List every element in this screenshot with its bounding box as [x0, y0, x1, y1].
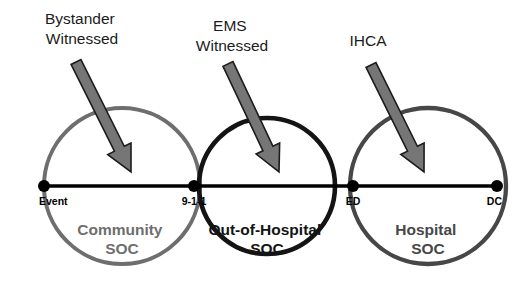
zone-label-community-line2: SOC: [105, 240, 139, 257]
callout-label-ems-line1: EMS: [213, 17, 247, 34]
zone-label-out-of-hospital-line1: Out-of-Hospital: [208, 221, 321, 238]
timeline-dot-911: [188, 180, 200, 192]
milestone-label-911: 9-1-1: [182, 195, 207, 207]
milestone-label-event: Event: [39, 195, 68, 207]
timeline-dot-event: [38, 180, 50, 192]
milestone-label-ed: ED: [346, 195, 361, 207]
callout-label-ems-line2: Witnessed: [196, 37, 268, 54]
callout-label-ihca-line1: IHCA: [349, 32, 387, 49]
timeline-dot-dc: [491, 180, 503, 192]
callout-label-ihca: IHCA: [349, 32, 387, 49]
zone-label-community-line1: Community: [77, 221, 163, 238]
zone-label-hospital-line1: Hospital: [395, 221, 456, 238]
systems-of-care-diagram: Event 9-1-1 ED DC Community SOC Out-of-H…: [0, 0, 531, 300]
zone-label-out-of-hospital-line2: SOC: [250, 240, 284, 257]
zone-label-hospital-line2: SOC: [411, 240, 445, 257]
diagram-root: Event 9-1-1 ED DC Community SOC Out-of-H…: [0, 0, 531, 300]
callout-label-bystander-line2: Witnessed: [46, 30, 118, 47]
timeline-dot-ed: [347, 180, 359, 192]
milestone-label-dc: DC: [487, 195, 503, 207]
callout-label-bystander-line1: Bystander: [45, 10, 115, 27]
